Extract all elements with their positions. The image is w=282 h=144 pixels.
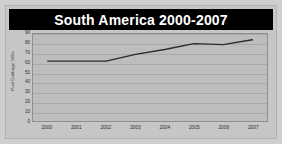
y-tick-label: 30 <box>25 90 30 95</box>
chart-title-banner: South America 2000-2007 <box>9 9 273 30</box>
series-line <box>33 34 267 121</box>
x-tick-label: 2004 <box>159 125 170 130</box>
x-tick-label: 2000 <box>41 125 52 130</box>
x-tick-label: 2007 <box>248 125 259 130</box>
x-axis-ticks: 20002001200220032004200520062007 <box>32 125 268 137</box>
y-tick-label: 10 <box>25 110 30 115</box>
x-tick-label: 2002 <box>100 125 111 130</box>
x-tick-label: 2005 <box>189 125 200 130</box>
plot-area <box>32 33 268 122</box>
plot-region: Pool Cabbage '000s 0102030405060708090 2… <box>9 31 273 134</box>
y-tick-label: 20 <box>25 100 30 105</box>
y-axis-ticks: 0102030405060708090 <box>16 31 31 122</box>
x-tick-label: 2001 <box>71 125 82 130</box>
chart-title: South America 2000-2007 <box>54 12 228 28</box>
y-tick-label: 40 <box>25 80 30 85</box>
y-tick-label: 0 <box>27 120 30 125</box>
y-tick-label: 70 <box>25 50 30 55</box>
y-tick-label: 50 <box>25 70 30 75</box>
y-tick-label: 90 <box>25 31 30 36</box>
x-tick-label: 2003 <box>130 125 141 130</box>
y-tick-label: 60 <box>25 60 30 65</box>
y-tick-label: 80 <box>25 41 30 46</box>
x-tick-label: 2006 <box>218 125 229 130</box>
chart-figure: South America 2000-2007 Pool Cabbage '00… <box>0 0 282 144</box>
